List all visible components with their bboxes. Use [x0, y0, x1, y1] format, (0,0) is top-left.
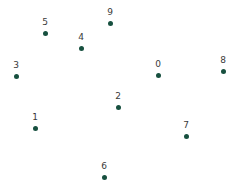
- scatter-point-label: 4: [78, 33, 84, 42]
- scatter-point-marker: [184, 134, 189, 139]
- scatter-point-marker: [156, 73, 161, 78]
- scatter-point-marker: [33, 126, 38, 131]
- scatter-point-marker: [43, 31, 48, 36]
- scatter-point-marker: [102, 175, 107, 180]
- scatter-point-label: 1: [32, 113, 38, 122]
- scatter-point-marker: [108, 21, 113, 26]
- scatter-point-marker: [79, 46, 84, 51]
- scatter-point-label: 8: [220, 56, 226, 65]
- scatter-point-marker: [221, 69, 226, 74]
- scatter-point-label: 2: [115, 92, 121, 101]
- scatter-point-label: 7: [183, 121, 189, 130]
- scatter-point-marker: [116, 105, 121, 110]
- scatter-point-label: 0: [155, 60, 161, 69]
- scatter-plot: 0123456789: [0, 0, 243, 188]
- scatter-point-label: 5: [42, 18, 48, 27]
- scatter-point-marker: [14, 74, 19, 79]
- scatter-point-label: 3: [13, 61, 19, 70]
- scatter-point-label: 9: [107, 8, 113, 17]
- scatter-point-label: 6: [101, 162, 107, 171]
